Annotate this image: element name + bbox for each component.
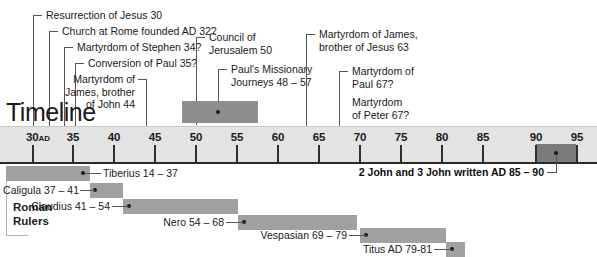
- tick-mark-70: [359, 145, 361, 163]
- ruler-label-tiberius: Tiberius 14 – 37: [103, 167, 178, 179]
- rulers-heading-line2: Rulers: [13, 214, 52, 228]
- callout-council-jerusalem: Council of Jerusalem 50: [209, 31, 272, 56]
- tick-mark-75: [400, 145, 402, 163]
- tick-label-40: 40: [108, 131, 120, 143]
- tick-mark-85: [482, 145, 484, 163]
- callout-paul-journeys: Paul's Missionary Journeys 48 – 57: [231, 63, 312, 88]
- leader-caligula: [80, 190, 95, 191]
- callout-paul-journeys-line1: Paul's Missionary: [231, 63, 312, 76]
- ruler-label-titus: Titus AD 79-81: [348, 243, 432, 255]
- axis-baseline: [0, 162, 597, 164]
- tick-mark-55: [236, 145, 238, 163]
- leader-paul-martyrdom-horizontal: [339, 71, 348, 72]
- callout-council-line1: Council of: [209, 31, 272, 44]
- leader-james-jesus-horizontal: [306, 34, 315, 35]
- tick-label-55: 55: [231, 131, 243, 143]
- leader-resurrection-horizontal: [33, 15, 42, 16]
- tick-label-75: 75: [395, 131, 407, 143]
- tick-label-35: 35: [67, 131, 79, 143]
- callout-stephen: Martyrdom of Stephen 34?: [77, 41, 201, 54]
- tick-label-70: 70: [354, 131, 366, 143]
- tick-label-90: 90: [530, 131, 542, 143]
- leader-vespasian: [349, 235, 366, 236]
- tick-mark-50: [195, 145, 197, 163]
- event-dot-paul-journeys: [216, 110, 220, 114]
- callout-james-jesus: Martyrdom of James, brother of Jesus 63: [319, 28, 418, 53]
- callout-paul-martyrdom-line1: Martyrdom of: [352, 65, 414, 78]
- callout-james-jesus-line2: brother of Jesus 63: [319, 41, 418, 54]
- leader-claudius: [112, 206, 129, 207]
- leader-james-john-vertical: [146, 79, 147, 129]
- leader-council-horizontal: [196, 37, 205, 38]
- axis-band: [0, 126, 597, 163]
- callout-council-line2: Jerusalem 50: [209, 44, 272, 57]
- tick-mark-80: [441, 145, 443, 163]
- callout-paul-journeys-line2: Journeys 48 – 57: [231, 76, 312, 89]
- tick-mark-65: [318, 145, 320, 163]
- callout-james-john-line2: James, brother: [38, 86, 135, 99]
- event-bar-paul-journeys: [182, 101, 258, 123]
- callout-peter-martyrdom-line2: of Peter 67?: [352, 109, 409, 122]
- tick-mark-35: [72, 145, 74, 163]
- callout-paul-martyrdom-line2: Paul 67?: [352, 78, 414, 91]
- callout-john-epistles: 2 John and 3 John written AD 85 – 90: [334, 166, 544, 178]
- tick-label-30-value: 30: [26, 131, 38, 143]
- leader-titus: [434, 249, 452, 250]
- ruler-bar-nero: [238, 215, 357, 230]
- axis-top-line: [0, 126, 597, 127]
- tick-label-65: 65: [313, 131, 325, 143]
- callout-resurrection: Resurrection of Jesus 30: [46, 9, 162, 22]
- callout-peter-martyrdom-line1: Martyrdom: [352, 96, 409, 109]
- tick-label-85: 85: [477, 131, 489, 143]
- tick-label-30-ad: AD: [38, 134, 50, 143]
- callout-james-john-line1: Martyrdom of: [38, 73, 135, 86]
- ruler-bar-claudius: [123, 199, 238, 214]
- ruler-bar-vespasian: [360, 228, 446, 243]
- leader-james-jesus-vertical: [306, 34, 307, 129]
- leader-stephen-horizontal: [64, 47, 73, 48]
- tick-mark-95: [576, 145, 578, 163]
- tick-mark-30: [32, 145, 34, 163]
- page-title: Timeline: [6, 98, 96, 127]
- callout-peter-martyrdom: Martyrdom of Peter 67?: [352, 96, 409, 121]
- tick-label-60: 60: [272, 131, 284, 143]
- leader-john-epistles-vertical: [556, 155, 557, 173]
- tick-label-95: 95: [571, 131, 583, 143]
- leader-paul-conversion-horizontal: [75, 63, 84, 64]
- tick-mark-60: [277, 145, 279, 163]
- leader-nero: [226, 222, 244, 223]
- tick-mark-40: [113, 145, 115, 163]
- callout-paul-conversion: Conversion of Paul 35?: [88, 57, 197, 70]
- ruler-label-vespasian: Vespasian 69 – 79: [253, 229, 347, 241]
- leader-tiberius: [85, 173, 101, 174]
- leader-church-rome-horizontal: [49, 31, 58, 32]
- ruler-label-nero: Nero 54 – 68: [140, 216, 224, 228]
- tick-label-80: 80: [436, 131, 448, 143]
- ruler-label-caligula: Caligula 37 – 41: [0, 184, 79, 196]
- leader-john-epistles-horizontal: [547, 172, 557, 173]
- tick-mark-90: [535, 145, 537, 163]
- tick-label-50: 50: [190, 131, 202, 143]
- callout-church-rome: Church at Rome founded AD 32?: [62, 25, 217, 38]
- callout-james-jesus-line1: Martyrdom of James,: [319, 28, 418, 41]
- ruler-bar-tiberius: [6, 166, 90, 181]
- tick-label-30: 30AD: [26, 131, 50, 143]
- leader-paul-journeys-horizontal: [218, 69, 227, 70]
- tick-label-45: 45: [149, 131, 161, 143]
- callout-paul-martyrdom: Martyrdom of Paul 67?: [352, 65, 414, 90]
- tick-mark-45: [154, 145, 156, 163]
- ruler-label-claudius: Claudius 41 – 54: [20, 200, 110, 212]
- timeline-figure: Resurrection of Jesus 30 Church at Rome …: [0, 0, 597, 257]
- leader-paul-martyrdom-vertical: [339, 71, 340, 129]
- rulers-bracket-foot: [6, 235, 28, 236]
